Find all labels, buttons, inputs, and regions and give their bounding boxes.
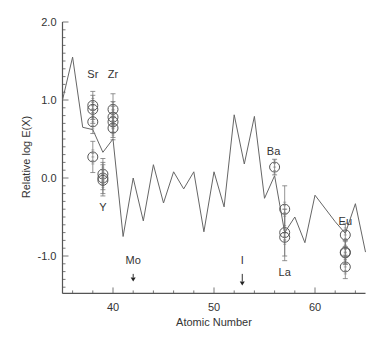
data-point-sr [88,110,98,133]
annotation-i: I [241,254,244,266]
y-tick-label: -1.0 [38,250,57,262]
annotation-la: La [279,266,292,278]
chart-svg: 2.01.00.0-1.0405060 SrZrYBaLaEuMoI Atomi… [0,0,385,342]
data-point-ba [270,159,280,175]
data-point-eu [340,255,350,278]
y-tick-label: 2.0 [41,16,56,28]
annotations: SrZrYBaLaEuMoI [87,68,352,285]
annotation-zr: Zr [108,68,119,80]
chart: 2.01.00.0-1.0405060 SrZrYBaLaEuMoI Atomi… [0,0,385,342]
y-axis-label: Relative log E(X) [20,116,32,199]
arrowhead-icon [240,281,245,285]
x-axis-label: Atomic Number [176,316,252,328]
annotation-eu: Eu [339,215,352,227]
arrowhead-icon [131,277,136,281]
axes: 2.01.00.0-1.0405060 [38,16,366,313]
y-tick-label: 0.0 [41,172,56,184]
data-point-y [98,165,108,196]
x-tick-label: 50 [208,301,220,313]
data-point-la [280,214,290,261]
model-line [63,57,366,252]
data-points [88,91,351,278]
annotation-ba: Ba [267,145,281,157]
model-curve [63,57,366,252]
x-tick-label: 40 [107,301,119,313]
y-tick-label: 1.0 [41,94,56,106]
data-point-sr [88,141,98,172]
annotation-mo: Mo [126,254,141,266]
annotation-sr: Sr [87,68,98,80]
data-point-zr [108,116,118,139]
annotation-y: Y [99,201,107,213]
x-tick-label: 60 [309,301,321,313]
